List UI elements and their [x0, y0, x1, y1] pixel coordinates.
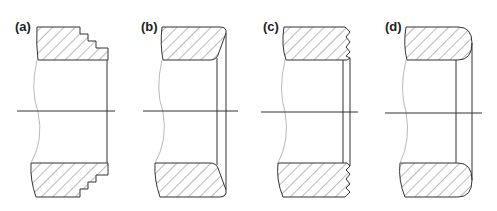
panel-d-bottom-section	[400, 163, 472, 197]
panel-label-c: (c)	[263, 19, 279, 34]
cross-section-diagram	[0, 0, 497, 211]
panel-a-top-section	[37, 27, 108, 60]
panel-d-top-section	[405, 27, 472, 60]
panel-label-a: (a)	[15, 19, 31, 34]
panel-b-bottom-section	[155, 163, 226, 197]
panel-c	[261, 27, 358, 197]
panel-a	[17, 27, 115, 197]
panel-a-bottom-section	[31, 163, 108, 197]
panel-d	[385, 27, 482, 197]
panel-b-top-section	[161, 27, 226, 60]
panel-b	[143, 27, 238, 197]
panel-c-bottom-section	[278, 163, 350, 197]
panel-label-d: (d)	[385, 19, 402, 34]
panel-label-b: (b)	[141, 19, 158, 34]
panel-d-break-line	[400, 60, 408, 163]
panel-c-top-section	[283, 27, 350, 60]
